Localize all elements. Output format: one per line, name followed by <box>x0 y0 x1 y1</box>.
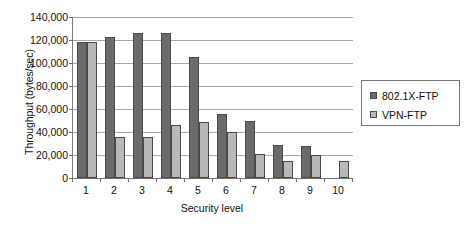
x-axis-tickmark <box>352 178 353 182</box>
x-axis-tickmark <box>128 178 129 182</box>
bar-vpn-ftp-level-5 <box>199 122 209 178</box>
x-axis-tick-label: 7 <box>240 184 268 196</box>
x-axis-tickmark <box>324 178 325 182</box>
x-axis-tickmark <box>72 178 73 182</box>
y-axis-tick-labels: 020,00040,00060,00080,000100,000120,0001… <box>8 0 68 227</box>
x-axis-tickmark <box>240 178 241 182</box>
y-axis-tick-label: 80,000 <box>8 81 68 91</box>
legend-entry: 802.1X-FTP <box>370 87 459 104</box>
legend-swatch-vpn-ftp <box>370 111 377 118</box>
y-axis-tick-label: 20,000 <box>8 150 68 160</box>
bar-802-1x-ftp-level-8 <box>273 145 283 178</box>
bars-layer <box>73 17 353 178</box>
x-axis-tickmarks <box>72 178 352 183</box>
plot-area <box>72 17 353 178</box>
bar-vpn-ftp-level-1 <box>87 42 97 178</box>
x-axis-title: Security level <box>72 202 352 214</box>
bar-vpn-ftp-level-7 <box>255 154 265 178</box>
x-axis-tickmark <box>100 178 101 182</box>
y-axis-tick-label: 0 <box>8 173 68 183</box>
x-axis-tick-label: 8 <box>268 184 296 196</box>
bar-802-1x-ftp-level-9 <box>301 146 311 178</box>
bar-802-1x-ftp-level-4 <box>161 33 171 178</box>
legend-entry: VPN-FTP <box>370 106 459 123</box>
x-axis-tickmark <box>296 178 297 182</box>
y-axis-tick-label: 100,000 <box>8 58 68 68</box>
throughput-bar-chart: Throughput (bytes/sec) 020,00040,00060,0… <box>0 0 466 227</box>
x-axis-tick-labels: 12345678910 <box>72 184 352 200</box>
bar-802-1x-ftp-level-5 <box>189 57 199 178</box>
x-axis-tick-label: 9 <box>296 184 324 196</box>
bar-vpn-ftp-level-3 <box>143 137 153 178</box>
bar-802-1x-ftp-level-3 <box>133 33 143 178</box>
chart-legend: 802.1X-FTPVPN-FTP <box>361 80 460 126</box>
y-axis-tick-label: 120,000 <box>8 35 68 45</box>
x-axis-tick-label: 2 <box>100 184 128 196</box>
bar-802-1x-ftp-level-1 <box>77 42 87 178</box>
x-axis-tick-label: 5 <box>184 184 212 196</box>
bar-vpn-ftp-level-4 <box>171 125 181 178</box>
bar-vpn-ftp-level-10 <box>339 161 349 178</box>
x-axis-tickmark <box>268 178 269 182</box>
y-axis-tick-label: 60,000 <box>8 104 68 114</box>
bar-802-1x-ftp-level-7 <box>245 121 255 179</box>
x-axis-tick-label: 4 <box>156 184 184 196</box>
legend-swatch-802-1x-ftp <box>370 92 377 99</box>
x-axis-tick-label: 3 <box>128 184 156 196</box>
y-axis-tick-label: 140,000 <box>8 12 68 22</box>
bar-802-1x-ftp-level-2 <box>105 37 115 178</box>
bar-vpn-ftp-level-8 <box>283 161 293 178</box>
legend-label: 802.1X-FTP <box>382 90 439 102</box>
x-axis-tick-label: 6 <box>212 184 240 196</box>
x-axis-tickmark <box>156 178 157 182</box>
legend-label: VPN-FTP <box>382 109 427 121</box>
x-axis-tickmark <box>212 178 213 182</box>
bar-802-1x-ftp-level-6 <box>217 114 227 178</box>
bar-vpn-ftp-level-2 <box>115 137 125 178</box>
x-axis-tickmark <box>184 178 185 182</box>
x-axis-tick-label: 10 <box>324 184 352 196</box>
x-axis-tick-label: 1 <box>72 184 100 196</box>
y-axis-tick-label: 40,000 <box>8 127 68 137</box>
bar-vpn-ftp-level-9 <box>311 155 321 178</box>
bar-vpn-ftp-level-6 <box>227 132 237 178</box>
